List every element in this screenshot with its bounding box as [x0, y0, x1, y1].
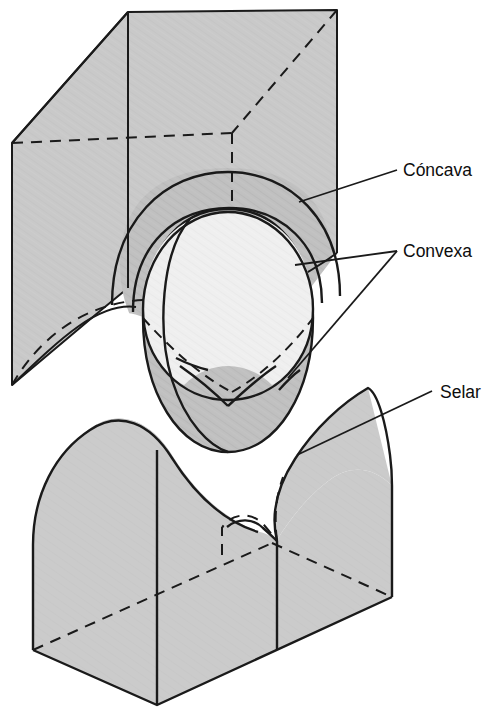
saddle-left-peak-fill — [33, 418, 172, 620]
label-concava: Cóncava — [403, 160, 472, 180]
label-selar: Selar — [440, 382, 481, 402]
curvature-diagram: Cóncava Convexa Selar — [0, 0, 495, 709]
convex-sphere-body — [143, 212, 313, 385]
labels-group: Cóncava Convexa Selar — [403, 160, 481, 402]
label-convexa: Convexa — [403, 241, 472, 261]
cube-left-face — [12, 12, 128, 385]
figure-container: Cóncava Convexa Selar — [0, 0, 495, 709]
concave-convex-assembly — [12, 10, 340, 452]
